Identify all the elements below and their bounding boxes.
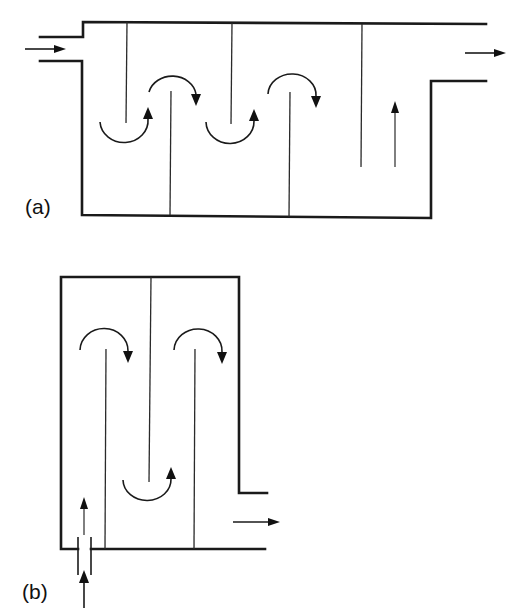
- over-turn-arrow-icon: [149, 76, 201, 106]
- over-turn-arrow-icon: [174, 329, 227, 364]
- up-arrow-icon: [80, 497, 88, 535]
- panel-b: [61, 277, 280, 608]
- outlet-arrow-icon: [465, 49, 506, 57]
- over-turn-arrow-icon: [268, 74, 321, 108]
- top-baffle-1: [126, 22, 127, 123]
- inlet-arrow-icon: [79, 570, 89, 608]
- outlet-arrow-icon: [233, 518, 280, 526]
- inlet-arrow-icon: [25, 45, 66, 53]
- up-arrow-icon: [391, 101, 399, 167]
- bottom-baffle-b-2: [194, 349, 195, 549]
- tank-a-outline: [40, 22, 486, 218]
- bottom-baffle-b-1: [105, 349, 106, 549]
- panel-a: [25, 22, 506, 218]
- panel-b-label: (b): [22, 581, 48, 602]
- u-turn-arrow-icon: [206, 109, 259, 143]
- bottom-baffle-2: [289, 92, 290, 217]
- top-baffle-b: [149, 277, 151, 482]
- panel-a-label: (a): [25, 196, 51, 217]
- top-baffle-3: [361, 24, 362, 167]
- top-baffle-2: [231, 23, 232, 124]
- bottom-baffle-1: [170, 91, 171, 215]
- tank-b-outline: [61, 277, 267, 549]
- baffled-tank-diagram: [0, 0, 530, 608]
